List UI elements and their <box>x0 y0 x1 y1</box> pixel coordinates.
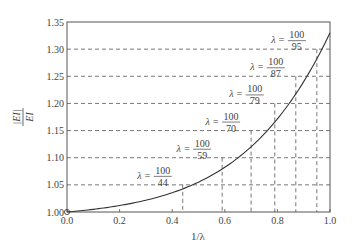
svg-text:100: 100 <box>224 111 239 122</box>
y-tick-label: 1.35 <box>47 17 65 28</box>
x-tick-label: 0.6 <box>219 215 232 226</box>
y-tick-label: 1.10 <box>47 152 65 163</box>
svg-text:87: 87 <box>271 68 281 79</box>
x-tick-label: 0.2 <box>113 215 126 226</box>
svg-text:λ =: λ = <box>270 34 285 45</box>
plot-frame <box>67 22 330 212</box>
svg-text:79: 79 <box>250 95 260 106</box>
lambda-annotation: λ =10095 <box>270 29 306 52</box>
y-tick-label: 1.30 <box>47 44 65 55</box>
svg-text:95: 95 <box>292 41 302 52</box>
x-tick-label: 1.0 <box>324 215 337 226</box>
lambda-annotation: λ =10044 <box>136 165 172 188</box>
svg-text:59: 59 <box>197 150 207 161</box>
data-curve <box>67 33 330 212</box>
svg-text:70: 70 <box>226 123 236 134</box>
y-tick-label: 1.20 <box>47 98 65 109</box>
svg-text:100: 100 <box>289 29 304 40</box>
svg-text:100: 100 <box>268 56 283 67</box>
y-tick-label: 1.05 <box>47 179 65 190</box>
svg-text:λ =: λ = <box>136 170 151 181</box>
lambda-annotation: λ =10079 <box>228 83 264 106</box>
lambda-annotation: λ =10059 <box>176 138 212 161</box>
lambda-annotation: λ =10070 <box>205 111 241 134</box>
lambda-annotations: λ =10044λ =10059λ =10070λ =10079λ =10087… <box>136 29 306 188</box>
svg-text:λ =: λ = <box>228 88 243 99</box>
svg-text:100: 100 <box>247 83 262 94</box>
svg-text:λ =: λ = <box>176 143 191 154</box>
y-tick-label: 1.00 <box>47 207 65 218</box>
lambda-annotation: λ =10087 <box>249 56 285 79</box>
y-axis-label-numerator: |EI| <box>11 110 22 125</box>
svg-text:100: 100 <box>195 138 210 149</box>
x-tick-label: 0.4 <box>166 215 179 226</box>
svg-text:λ =: λ = <box>205 116 220 127</box>
y-tick-label: 1.15 <box>47 125 65 136</box>
x-tick-label: 0.8 <box>271 215 284 226</box>
x-axis-label: 1/λ <box>191 230 206 242</box>
y-axis-label: |EI| EI <box>11 108 35 126</box>
chart: 0.00.20.40.60.81.01.001.051.101.151.201.… <box>0 0 353 252</box>
svg-text:λ =: λ = <box>249 61 264 72</box>
y-axis-label-denominator: EI <box>24 112 35 123</box>
svg-text:44: 44 <box>158 177 168 188</box>
svg-text:100: 100 <box>155 165 170 176</box>
reference-lines <box>67 49 330 212</box>
y-tick-label: 1.25 <box>47 71 65 82</box>
